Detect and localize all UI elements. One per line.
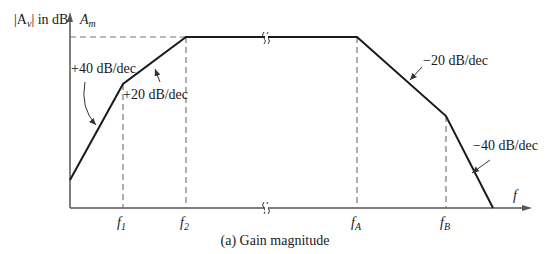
plus20-label: +20 dB/dec <box>123 87 188 102</box>
plus20-arrow-icon <box>155 69 160 82</box>
minus40-arrow-icon <box>472 160 490 173</box>
tick-fB: fB <box>440 215 450 232</box>
tick-fA: fA <box>351 215 362 232</box>
x-axis-label: f <box>513 188 519 203</box>
minus20-label: −20 dB/dec <box>423 53 488 68</box>
minus20-arrow-icon <box>410 67 422 80</box>
plus40-arrow-icon <box>84 82 96 125</box>
minus40-label: −40 dB/dec <box>473 138 538 153</box>
y-axis-label: |Av| in dB <box>14 12 68 29</box>
x-axis-arrow-icon <box>522 205 532 211</box>
figure-caption: (a) Gain magnitude <box>221 233 330 249</box>
plus40-label: +40 dB/dec <box>71 61 136 76</box>
tick-f1: f1 <box>117 215 126 232</box>
am-label: Am <box>79 12 96 29</box>
tick-f2: f2 <box>180 215 189 232</box>
bode-magnitude-diagram: |Av| in dB Am +40 dB/dec +20 dB/dec −20 … <box>0 0 550 254</box>
